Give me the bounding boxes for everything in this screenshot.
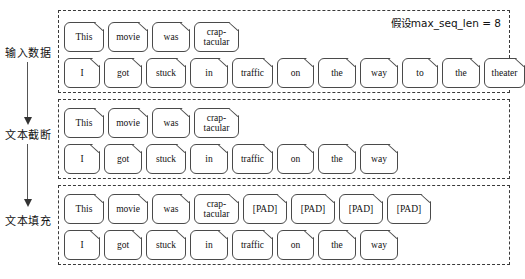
- word-token: in: [190, 144, 228, 174]
- word-token: the: [318, 144, 356, 174]
- token-label: crap-tacular: [204, 199, 230, 219]
- word-token: got: [104, 144, 142, 174]
- token-corner-bevel-icon: [230, 22, 239, 31]
- token-label: [PAD]: [253, 204, 277, 215]
- token-corner-bevel-icon: [91, 144, 100, 153]
- token-corner-bevel-icon: [326, 194, 335, 203]
- pad-token: [PAD]: [291, 194, 335, 224]
- token-corner-bevel-icon: [91, 230, 100, 239]
- pad-token: [PAD]: [243, 194, 287, 224]
- word-token: movie: [108, 194, 148, 224]
- token-label: the: [331, 68, 343, 79]
- token-corner-bevel-icon: [181, 194, 190, 203]
- word-token: traffic: [232, 144, 273, 174]
- token-label: This: [76, 204, 93, 215]
- token-corner-bevel-icon: [95, 194, 104, 203]
- token-label: [PAD]: [397, 204, 421, 215]
- token-label: way: [371, 154, 387, 165]
- word-token: This: [64, 108, 104, 138]
- token-corner-bevel-icon: [264, 144, 273, 153]
- token-corner-bevel-icon: [374, 194, 383, 203]
- word-token: was: [152, 194, 190, 224]
- token-label: on: [291, 68, 301, 79]
- word-token: I: [64, 58, 100, 88]
- token-corner-bevel-icon: [91, 58, 100, 67]
- word-token: movie: [108, 22, 148, 52]
- token-corner-bevel-icon: [181, 22, 190, 31]
- word-token: way: [360, 58, 398, 88]
- token-label: movie: [116, 118, 140, 129]
- section-input-data: 假设max_seq_len = 8 Thismoviewascrap-tacul…: [58, 10, 510, 93]
- word-token: on: [277, 144, 314, 174]
- token-label: movie: [116, 204, 140, 215]
- word-token: in: [190, 230, 228, 260]
- word-token: traffic: [232, 230, 273, 260]
- word-token: theater: [484, 58, 525, 88]
- pad-token: [PAD]: [387, 194, 431, 224]
- token-label: was: [164, 204, 179, 215]
- token-corner-bevel-icon: [389, 144, 398, 153]
- token-corner-bevel-icon: [133, 58, 142, 67]
- token-label: [PAD]: [349, 204, 373, 215]
- token-corner-bevel-icon: [219, 144, 228, 153]
- token-corner-bevel-icon: [95, 22, 104, 31]
- token-label: the: [331, 154, 343, 165]
- token-corner-bevel-icon: [305, 230, 314, 239]
- token-label: [PAD]: [301, 204, 325, 215]
- token-corner-bevel-icon: [177, 58, 186, 67]
- word-token: I: [64, 144, 100, 174]
- stage-label-text-padding: 文本填充: [0, 212, 56, 228]
- word-token: crap-tacular: [194, 108, 239, 138]
- word-token: crap-tacular: [194, 22, 239, 52]
- token-corner-bevel-icon: [133, 230, 142, 239]
- token-label: movie: [116, 32, 140, 43]
- word-token: the: [318, 58, 356, 88]
- token-corner-bevel-icon: [139, 22, 148, 31]
- word-token: traffic: [232, 58, 273, 88]
- flow-column: 输入数据 文本截断 文本填充: [0, 0, 58, 279]
- token-label: I: [80, 68, 83, 79]
- token-corner-bevel-icon: [181, 108, 190, 117]
- token-row: Thismoviewascrap-tacular[PAD][PAD][PAD][…: [64, 194, 504, 224]
- stage-label-input-data: 输入数据: [0, 44, 56, 60]
- flow-arrow-2: [27, 144, 28, 200]
- word-token: stuck: [146, 230, 186, 260]
- token-label: in: [205, 68, 212, 79]
- token-corner-bevel-icon: [177, 144, 186, 153]
- word-token: was: [152, 22, 190, 52]
- token-label: stuck: [156, 68, 176, 79]
- token-label: traffic: [241, 240, 264, 251]
- word-token: the: [442, 58, 480, 88]
- token-corner-bevel-icon: [389, 58, 398, 67]
- token-label: the: [455, 68, 467, 79]
- token-label: in: [205, 154, 212, 165]
- word-token: stuck: [146, 144, 186, 174]
- token-label: This: [76, 32, 93, 43]
- token-corner-bevel-icon: [422, 194, 431, 203]
- token-label: on: [291, 154, 301, 165]
- token-corner-bevel-icon: [429, 58, 438, 67]
- token-corner-bevel-icon: [219, 58, 228, 67]
- token-corner-bevel-icon: [516, 58, 525, 67]
- word-token: was: [152, 108, 190, 138]
- token-row: Igotstuckintrafficontheway: [64, 230, 504, 260]
- token-corner-bevel-icon: [471, 58, 480, 67]
- token-row: Thismoviewascrap-tacular: [64, 22, 504, 52]
- section-text-padding: Thismoviewascrap-tacular[PAD][PAD][PAD][…: [58, 185, 510, 265]
- token-label: got: [117, 68, 129, 79]
- token-corner-bevel-icon: [389, 230, 398, 239]
- token-label: the: [331, 240, 343, 251]
- token-row: Thismoviewascrap-tacular: [64, 108, 504, 138]
- token-label: got: [117, 240, 129, 251]
- token-label: was: [164, 32, 179, 43]
- token-label: got: [117, 154, 129, 165]
- word-token: way: [360, 230, 398, 260]
- token-label: in: [205, 240, 212, 251]
- word-token: got: [104, 58, 142, 88]
- token-corner-bevel-icon: [347, 144, 356, 153]
- word-token: in: [190, 58, 228, 88]
- token-corner-bevel-icon: [305, 58, 314, 67]
- token-label: crap-tacular: [204, 27, 230, 47]
- token-corner-bevel-icon: [347, 230, 356, 239]
